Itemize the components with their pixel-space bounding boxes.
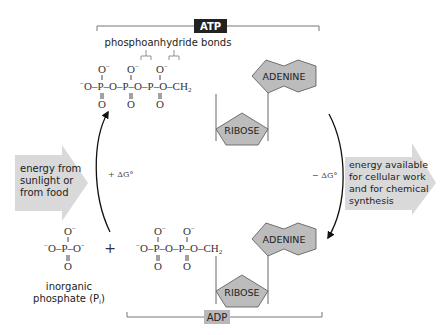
svg-text:O: O xyxy=(98,98,106,110)
bond-pointers xyxy=(141,50,179,60)
energy-output-line3: and for chemical xyxy=(349,183,429,194)
svg-text:O−: O− xyxy=(156,63,168,75)
svg-text:O: O xyxy=(183,260,191,272)
svg-text:O: O xyxy=(154,260,162,272)
svg-text:−O–P–O–P–O–P–O–CH2: −O–P–O–P–O–P–O–CH2 xyxy=(80,80,192,94)
pi-label-line1: inorganic xyxy=(46,281,92,292)
adenine-label: ADENINE xyxy=(263,234,306,245)
svg-text:O−: O− xyxy=(127,63,139,75)
energy-output-line2: for cellular work xyxy=(349,171,426,182)
svg-text:O: O xyxy=(64,260,72,272)
plus-sign: + xyxy=(104,240,116,256)
svg-text:−O–P–O−: −O–P–O− xyxy=(44,242,85,254)
adp-label: ADP xyxy=(207,312,228,323)
energy-output-arrow: energy available for cellular work and f… xyxy=(345,143,436,215)
atp-bracket: ATP xyxy=(97,19,319,33)
atp-adp-cycle-diagram: ATP phosphoanhydride bonds O− O− O− −O–P… xyxy=(0,0,441,335)
energy-input-line2: sunlight or xyxy=(20,175,74,186)
svg-text:O−: O− xyxy=(64,225,76,237)
inorganic-phosphate: O− −O–P–O− O inorganic phosphate (Pi) xyxy=(33,225,105,306)
bond-label: phosphoanhydride bonds xyxy=(105,37,232,48)
svg-text:O−: O− xyxy=(154,225,166,237)
svg-text:O: O xyxy=(127,98,135,110)
energy-input-arrow: energy from sunlight or from food xyxy=(15,145,88,221)
energy-output-line1: energy available xyxy=(349,159,428,170)
adp-nucleoside: ADENINE RIBOSE xyxy=(216,223,316,307)
adenine-label: ADENINE xyxy=(263,71,306,82)
negative-delta-g: − ΔG° xyxy=(312,171,337,180)
energy-input-line3: from food xyxy=(20,187,69,198)
energy-output-line4: synthesis xyxy=(349,195,394,206)
atp-label: ATP xyxy=(200,21,221,32)
svg-text:O−: O− xyxy=(183,225,195,237)
energy-input-line1: energy from xyxy=(20,163,81,174)
pi-label-line2: phosphate (Pi) xyxy=(33,293,105,306)
svg-text:−O–P–O–P–O–CH2: −O–P–O–P–O–CH2 xyxy=(136,242,223,256)
positive-delta-g: + ΔG° xyxy=(108,170,133,179)
svg-text:O: O xyxy=(156,98,164,110)
atp-phosphate-chain: O− O− O− −O–P–O–P–O–P–O–CH2 O O O xyxy=(80,63,192,110)
atp-nucleoside: ADENINE RIBOSE xyxy=(216,60,316,145)
svg-text:O−: O− xyxy=(98,63,110,75)
adp-phosphate-chain: O− O− −O–P–O–P–O–CH2 O O xyxy=(136,225,223,272)
ribose-label: RIBOSE xyxy=(224,287,259,298)
adp-bracket: ADP xyxy=(127,310,322,324)
ribose-label: RIBOSE xyxy=(224,125,259,136)
